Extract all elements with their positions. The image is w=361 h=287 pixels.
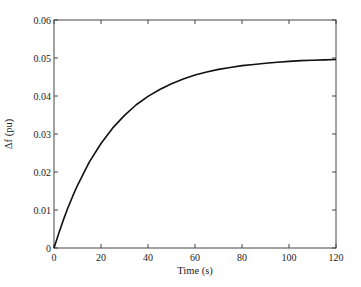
y-tick-label: 0.02 [34,167,52,178]
line-chart: 020406080100120 00.010.020.030.040.050.0… [0,0,361,287]
x-tick-label: 100 [282,252,297,263]
y-tick-label: 0.03 [34,129,52,140]
x-tick-label: 0 [52,252,57,263]
plot-frame [54,20,336,248]
x-tick-label: 20 [96,252,106,263]
y-tick-label: 0.04 [34,91,52,102]
y-axis-ticks: 00.010.020.030.040.050.06 [34,15,337,254]
series-line [54,60,336,248]
y-tick-label: 0 [46,243,51,254]
x-tick-label: 80 [237,252,247,263]
y-tick-label: 0.06 [34,15,52,26]
x-tick-label: 120 [329,252,344,263]
x-axis-ticks: 020406080100120 [52,20,344,263]
x-axis-label: Time (s) [177,265,213,277]
y-tick-label: 0.01 [34,205,52,216]
x-tick-label: 60 [190,252,200,263]
x-tick-label: 40 [143,252,153,263]
y-tick-label: 0.05 [34,53,52,64]
y-axis-label: Δf (pu) [3,118,15,149]
